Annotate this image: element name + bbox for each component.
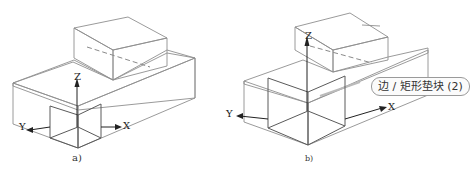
figure-a-z-axis-label: Z <box>74 72 81 82</box>
figure-b-z-axis-label: Z <box>305 31 312 41</box>
figure-b-x-axis-label: X <box>388 102 395 112</box>
figure-a-y-axis-label: Y <box>19 122 26 132</box>
figure-a-x-axis-label: X <box>123 121 130 131</box>
edge-pad-tooltip: 边 / 矩形垫块 (2) <box>371 77 470 96</box>
figure-a-caption: a) <box>72 153 82 163</box>
figure-a-model <box>13 17 195 148</box>
figure-b-caption: b) <box>305 155 313 163</box>
figure-b-y-axis-label: Y <box>226 109 233 119</box>
